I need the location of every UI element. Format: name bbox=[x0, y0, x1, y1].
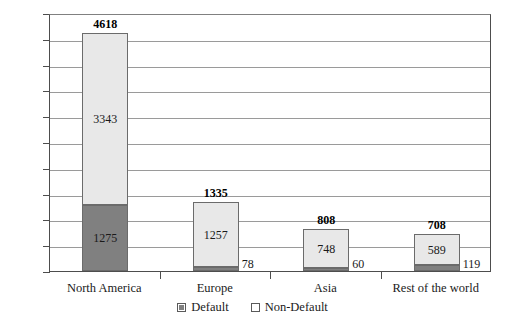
x-axis-tick-mark bbox=[160, 272, 161, 279]
x-axis-category-label: Rest of the world bbox=[381, 281, 492, 295]
bar-group[interactable]: 589119708 bbox=[414, 234, 460, 271]
bar-value-label-default: 119 bbox=[463, 258, 481, 270]
legend-label-default: Default bbox=[191, 301, 228, 314]
bar-group[interactable]: 334312754618 bbox=[82, 33, 128, 271]
bar-value-label-non-default: 1257 bbox=[193, 229, 239, 241]
legend-label-non-default: Non-Default bbox=[265, 301, 328, 314]
bar-value-label-non-default: 589 bbox=[414, 244, 460, 256]
x-axis-category-label: North America bbox=[49, 281, 160, 295]
bar-total-label: 808 bbox=[281, 214, 371, 226]
legend-item-non-default[interactable]: Non-Default bbox=[251, 301, 328, 314]
plot-area: 334312754618125778133574860808589119708 bbox=[49, 14, 491, 272]
x-axis-tick-mark bbox=[381, 272, 382, 279]
chart-legend: Default Non-Default bbox=[0, 301, 505, 314]
stacked-bar-chart: 5000450040003500300025002000150010005000… bbox=[0, 0, 505, 322]
bar-value-label-non-default: 3343 bbox=[82, 113, 128, 125]
bar-segment-default[interactable] bbox=[193, 267, 239, 271]
y-axis-tick-mark bbox=[43, 272, 50, 273]
bar-value-label-default: 60 bbox=[352, 258, 364, 270]
legend-swatch-non-default-icon bbox=[251, 303, 260, 312]
x-axis-category-label: Asia bbox=[270, 281, 381, 295]
x-axis-category-label: Europe bbox=[160, 281, 271, 295]
bar-total-label: 708 bbox=[392, 219, 482, 231]
x-axis-tick-mark bbox=[270, 272, 271, 279]
bar-value-label-default: 78 bbox=[242, 258, 254, 270]
legend-item-default[interactable]: Default bbox=[177, 301, 228, 314]
bar-segment-default[interactable] bbox=[414, 265, 460, 271]
bar-total-label: 4618 bbox=[60, 18, 150, 30]
bar-group[interactable]: 74860808 bbox=[303, 229, 349, 271]
bar-group[interactable]: 1257781335 bbox=[193, 202, 239, 271]
bar-value-label-default: 1275 bbox=[82, 232, 128, 244]
legend-swatch-default-icon bbox=[177, 303, 186, 312]
bar-total-label: 1335 bbox=[171, 187, 261, 199]
bar-value-label-non-default: 748 bbox=[303, 243, 349, 255]
bar-segment-default[interactable] bbox=[303, 268, 349, 271]
